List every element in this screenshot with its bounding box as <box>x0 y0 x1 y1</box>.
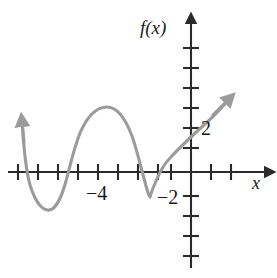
function-curve <box>22 101 227 210</box>
coordinate-plane <box>0 0 277 278</box>
x-tick-label-neg4: −4 <box>86 182 107 205</box>
y-tick-label-neg2: −2 <box>157 186 178 209</box>
y-tick-label-2: 2 <box>201 117 211 140</box>
y-axis-label: f(x) <box>140 17 166 39</box>
graph-figure: f(x) x −4 −2 2 <box>0 0 277 278</box>
x-axis-label: x <box>252 173 260 194</box>
y-axis <box>183 22 199 268</box>
x-axis <box>8 164 266 180</box>
